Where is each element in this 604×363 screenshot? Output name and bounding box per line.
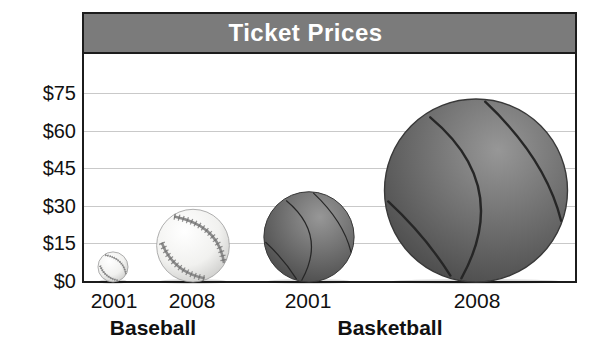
x-axis-year-label: 2008 <box>147 290 237 312</box>
gridline-45 <box>84 168 575 169</box>
gridline-60 <box>84 131 575 132</box>
ticket-prices-chart: Ticket Prices $0$15$30$45$60$75200120082… <box>0 0 604 363</box>
y-axis-tick-label: $45 <box>0 157 76 179</box>
gridline-75 <box>84 93 575 94</box>
y-axis-tick-label: $0 <box>0 270 76 292</box>
x-axis-year-label: 2008 <box>432 290 522 312</box>
chart-title: Ticket Prices <box>228 19 382 47</box>
x-axis-year-label: 2001 <box>69 290 159 312</box>
x-axis-group-label: Baseball <box>63 316 243 340</box>
x-axis-group-label: Basketball <box>300 316 480 340</box>
chart-frame: Ticket Prices <box>82 12 577 283</box>
gridline-30 <box>84 206 575 207</box>
y-axis-tick-label: $75 <box>0 82 76 104</box>
y-axis-tick-label: $30 <box>0 195 76 217</box>
y-axis-tick-label: $15 <box>0 232 76 254</box>
gridline-15 <box>84 243 575 244</box>
plot-area <box>84 54 575 281</box>
y-axis-tick-label: $60 <box>0 120 76 142</box>
chart-title-bar: Ticket Prices <box>84 14 575 54</box>
x-axis-year-label: 2001 <box>263 290 353 312</box>
